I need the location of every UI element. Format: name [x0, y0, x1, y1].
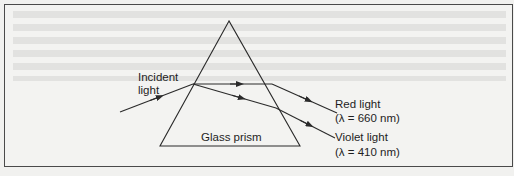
violet-light-label: Violet light	[335, 130, 388, 144]
red-ray-exit-arrow	[299, 96, 309, 101]
incident-ray-arrow	[150, 97, 160, 101]
violet-light-wavelength: (λ = 410 nm)	[335, 145, 400, 159]
violet-ray-exit-arrow	[300, 120, 310, 125]
red-light-wavelength: (λ = 660 nm)	[335, 111, 400, 125]
violet-ray-internal-arrow	[232, 95, 242, 98]
incident-light-label-line2: light	[138, 83, 159, 97]
red-light-label: Red light	[335, 97, 380, 111]
glass-prism-label: Glass prism	[201, 130, 262, 144]
prism-diagram	[0, 0, 514, 176]
incident-light-label-line1: Incident	[138, 70, 178, 84]
